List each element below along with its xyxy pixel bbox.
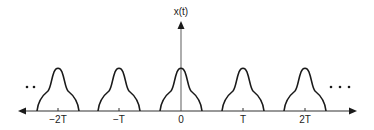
pulse-T (222, 68, 264, 111)
tick-label-2T: 2T (299, 114, 311, 125)
y-axis-arrow-icon (178, 21, 185, 29)
left-ellipsis (26, 86, 36, 89)
x-axis-right-arrow-icon (349, 108, 357, 115)
pulse-minus-2T (37, 68, 79, 111)
y-axis (178, 21, 185, 111)
periodic-signal-diagram: x(t) −2T −T 0 T 2T (0, 0, 374, 130)
pulse-2T (284, 68, 326, 111)
tick-label-0: 0 (178, 114, 184, 125)
tick-label-T: T (240, 114, 246, 125)
pulse-minus-T (98, 68, 140, 111)
x-axis-left-arrow-icon (18, 108, 26, 115)
tick-label-minus-T: −T (113, 114, 125, 125)
tick-label-minus-2T: −2T (49, 114, 67, 125)
y-axis-label: x(t) (174, 6, 188, 17)
right-ellipsis (330, 86, 351, 89)
